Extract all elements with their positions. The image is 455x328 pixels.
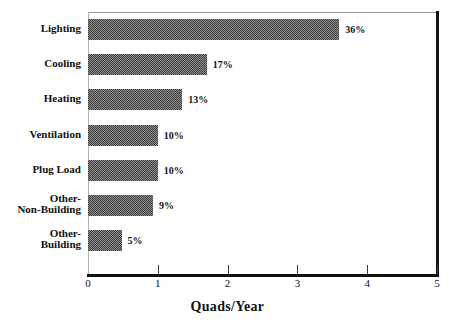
bar	[88, 19, 339, 40]
x-axis-tick	[158, 265, 159, 274]
category-label-line: Heating	[0, 93, 81, 104]
category-label-line: Cooling	[0, 58, 81, 69]
bar	[88, 54, 207, 75]
x-axis-tick	[228, 265, 229, 274]
category-label-line: Lighting	[0, 23, 81, 34]
bar	[88, 160, 158, 181]
bar-value-label: 17%	[213, 59, 233, 70]
bar-chart: 36%17%13%10%10%9%5% LightingCoolingHeati…	[0, 0, 455, 328]
category-label-line: Non-Building	[0, 204, 81, 215]
bar-value-label: 9%	[159, 200, 174, 211]
bar-series: 36%17%13%10%10%9%5%	[88, 12, 437, 274]
x-axis-tick-label: 0	[76, 277, 100, 289]
bar-row: 9%	[88, 195, 174, 216]
x-axis-tick-label: 5	[425, 277, 449, 289]
x-axis-title: Quads/Year	[0, 299, 455, 315]
x-axis-tick	[297, 265, 298, 274]
category-label-line: Building	[0, 239, 81, 250]
x-axis-tick	[437, 265, 438, 274]
bar-value-label: 36%	[345, 24, 365, 35]
bar	[88, 230, 122, 251]
bar	[88, 89, 182, 110]
bar-row: 36%	[88, 19, 365, 40]
category-label: Plug Load	[0, 164, 81, 175]
bar	[88, 195, 153, 216]
bar-value-label: 10%	[164, 130, 184, 141]
bar-row: 5%	[88, 230, 143, 251]
bar-value-label: 13%	[188, 94, 208, 105]
bar-row: 17%	[88, 54, 233, 75]
category-label: Heating	[0, 93, 81, 104]
x-axis-line	[87, 274, 439, 277]
category-label: Lighting	[0, 23, 81, 34]
category-label: Ventilation	[0, 129, 81, 140]
x-axis-tick-label: 2	[216, 277, 240, 289]
x-axis-tick-label: 3	[285, 277, 309, 289]
category-label: Other-Building	[0, 228, 81, 250]
x-axis-tick-label: 4	[355, 277, 379, 289]
x-axis-tick	[367, 265, 368, 274]
bar-row: 10%	[88, 160, 184, 181]
x-axis-tick-label: 1	[146, 277, 170, 289]
bar-row: 13%	[88, 89, 208, 110]
category-label-line: Ventilation	[0, 129, 81, 140]
category-label: Other-Non-Building	[0, 193, 81, 215]
bar-row: 10%	[88, 125, 184, 146]
category-label: Cooling	[0, 58, 81, 69]
category-label-line: Plug Load	[0, 164, 81, 175]
bar-value-label: 5%	[128, 235, 143, 246]
plot-area: 36%17%13%10%10%9%5%	[88, 12, 437, 274]
category-label-line: Other-	[0, 193, 81, 204]
bar-value-label: 10%	[164, 165, 184, 176]
bar	[88, 125, 158, 146]
